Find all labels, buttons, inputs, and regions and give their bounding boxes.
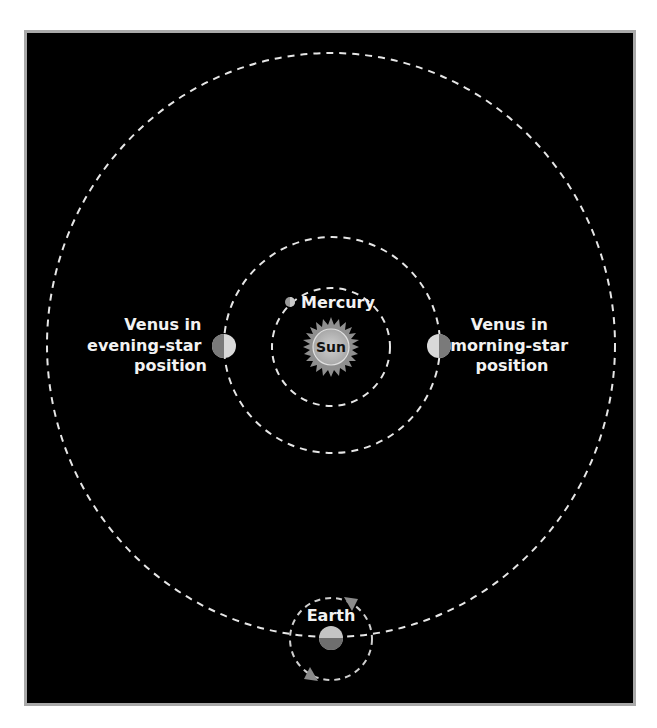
sun-label: Sun	[316, 339, 346, 355]
venus-morning-label: Venus in morning-star position	[450, 315, 573, 375]
venus-morning-icon	[427, 334, 451, 358]
rotation-arrow-icon	[304, 667, 318, 681]
earth-icon	[319, 626, 343, 650]
venus-evening-icon	[212, 334, 236, 358]
venus-evening-label: Venus in evening-star position	[87, 315, 207, 375]
mercury-icon	[285, 297, 295, 307]
earth-label: Earth	[307, 606, 356, 625]
mercury-label: Mercury	[301, 293, 375, 312]
solar-system-diagram: Sun Mercury Venus in evening-star positi…	[0, 0, 657, 728]
